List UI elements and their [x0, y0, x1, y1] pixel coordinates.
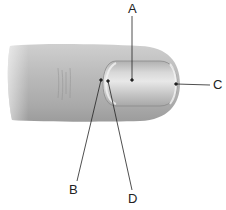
point-a: [131, 79, 134, 82]
point-c: [175, 83, 178, 86]
leader-line-c: [176, 84, 210, 85]
label-a: A: [128, 2, 137, 15]
point-d: [107, 80, 110, 83]
finger-diagram: A B C D: [0, 0, 226, 210]
label-c: C: [213, 78, 222, 91]
point-b: [100, 79, 103, 82]
label-d: D: [128, 192, 137, 205]
label-b: B: [69, 183, 78, 196]
nail-plate: [103, 61, 177, 106]
finger-illustration: [0, 0, 226, 210]
